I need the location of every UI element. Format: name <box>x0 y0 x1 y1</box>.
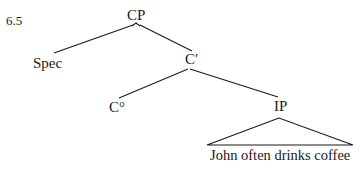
node-ip: IP <box>274 99 287 114</box>
edge-cp-spec <box>54 25 133 53</box>
tree-edges <box>0 0 362 170</box>
node-cbar: C′ <box>185 52 198 67</box>
node-ip-content: John often drinks coffee <box>210 148 350 163</box>
figure-number: 6.5 <box>6 13 22 28</box>
cp-caret <box>132 23 140 26</box>
edge-cbar-ip <box>190 69 278 97</box>
edge-cbar-c0 <box>119 69 188 98</box>
ip-triangle <box>207 118 353 145</box>
node-cp: CP <box>127 8 145 23</box>
node-c0: C° <box>109 100 125 115</box>
edge-cp-cbar <box>140 25 192 51</box>
node-spec: Spec <box>33 56 62 71</box>
